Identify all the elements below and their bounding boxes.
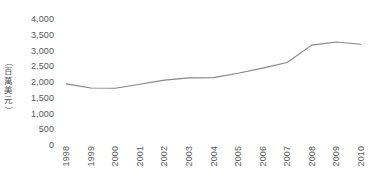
- x-axis-tick-label: 2008: [306, 146, 318, 184]
- x-axis-tick-label: 2009: [330, 146, 342, 184]
- y-axis-tick-label: 500: [39, 124, 54, 134]
- data-series-line: [66, 42, 360, 88]
- x-axis-tick-label: 2002: [158, 146, 170, 184]
- y-axis-tick-label: 2,000: [31, 77, 54, 87]
- line-chart-svg: [58, 10, 377, 149]
- x-axis-tick-label: 2004: [208, 146, 220, 184]
- y-axis-tick-label: 1,000: [31, 109, 54, 119]
- y-axis-tick-labels: 05001,0001,5002,0002,5003,0003,5004,000: [0, 0, 58, 152]
- y-axis-tick-label: 4,000: [31, 14, 54, 24]
- y-axis-tick-label: 3,000: [31, 46, 54, 56]
- chart-container: （百萬美元） 05001,0001,5002,0002,5003,0003,50…: [0, 0, 377, 184]
- x-axis-tick-label: 2000: [109, 146, 121, 184]
- x-axis-tick-label: 2003: [183, 146, 195, 184]
- plot-area: [58, 10, 377, 149]
- x-axis-tick-label: 2010: [355, 146, 367, 184]
- y-axis-tick-label: 1,500: [31, 93, 54, 103]
- x-axis-tick-labels: 1998199920002001200220032004200520062007…: [0, 146, 377, 184]
- x-axis-tick-label: 1999: [85, 146, 97, 184]
- x-axis-tick-label: 2001: [134, 146, 146, 184]
- x-axis-tick-label: 1998: [60, 146, 72, 184]
- x-axis-tick-label: 2006: [257, 146, 269, 184]
- y-axis-tick-label: 3,500: [31, 30, 54, 40]
- x-axis-tick-label: 2005: [232, 146, 244, 184]
- y-axis-tick-label: 2,500: [31, 61, 54, 71]
- x-axis-tick-label: 2007: [281, 146, 293, 184]
